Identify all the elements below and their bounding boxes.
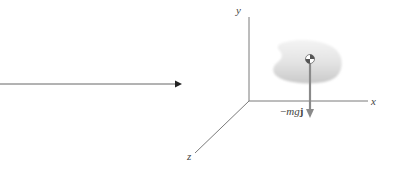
arrowhead-icon <box>175 81 182 88</box>
force-arrowhead-icon <box>306 109 314 118</box>
x-axis-label: x <box>370 95 376 107</box>
free-body-diagram: x y z −mgj <box>0 0 398 177</box>
z-axis-label: z <box>186 150 192 162</box>
center-of-mass-icon <box>306 55 315 64</box>
force-label-mg: mg <box>286 105 300 117</box>
pointer-arrow <box>0 81 182 88</box>
diagram-canvas: x y z −mgj <box>0 0 398 177</box>
force-label: −mgj <box>280 105 303 117</box>
force-label-j: j <box>299 105 304 117</box>
coordinate-axes <box>195 17 368 153</box>
z-axis <box>195 101 249 153</box>
y-axis-label: y <box>235 4 241 16</box>
